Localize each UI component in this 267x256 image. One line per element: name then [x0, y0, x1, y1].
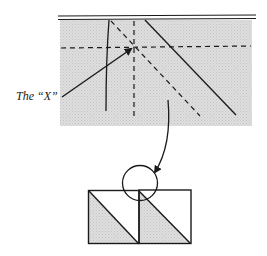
shaded-region [60, 20, 252, 126]
x-label: The “X” [16, 89, 58, 104]
fold-diagram [0, 0, 267, 256]
top-panel [58, 15, 256, 126]
top-edge-line-outer [58, 15, 256, 16]
top-edge-line-inner [58, 19, 256, 20]
bottom-panel [89, 166, 192, 244]
